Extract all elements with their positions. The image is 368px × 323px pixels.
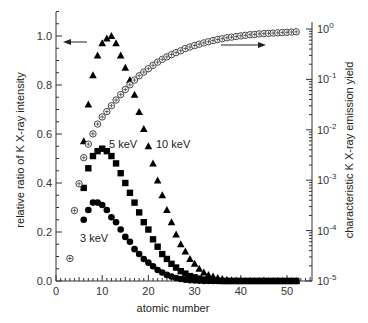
y-right-tick-label: 10-1	[317, 71, 337, 85]
annotation-3kev: 3 keV	[80, 232, 109, 244]
x-tick-label: 30	[188, 285, 200, 297]
y-tick-label: 0.0	[37, 275, 52, 287]
y-tick-label: 0.4	[37, 177, 52, 189]
y-tick-label: 1.0	[37, 30, 52, 42]
x-axis-label: atomic number	[137, 302, 210, 314]
y-right-tick-label: 10-3	[317, 172, 337, 186]
y-tick-label: 0.2	[37, 226, 52, 238]
y-tick-label: 0.6	[37, 128, 52, 140]
arrow-left-icon	[63, 39, 87, 45]
data-points	[67, 29, 300, 285]
y-right-tick-label: 10-4	[317, 223, 337, 237]
y-axis-label-right: characteristic K X-ray emission yield	[343, 62, 355, 239]
chart: 0.00.20.40.60.81.00102030405010-510-410-…	[0, 0, 368, 323]
series-3-kev	[80, 199, 299, 284]
y-axis-label-left: relative ratio of K X-ray intensity	[14, 72, 26, 228]
x-tick-label: 10	[96, 285, 108, 297]
y-right-tick-label: 100	[317, 21, 334, 35]
arrow-right-icon	[221, 42, 266, 48]
annotation-5kev: 5 keV	[109, 138, 138, 150]
annotation-10kev: 10 keV	[156, 138, 191, 150]
x-tick-label: 50	[281, 285, 293, 297]
y-right-tick-label: 10-2	[317, 122, 337, 136]
x-tick-label: 20	[142, 285, 154, 297]
y-right-tick-label: 10-5	[317, 273, 337, 287]
x-tick-label: 0	[53, 285, 59, 297]
y-tick-label: 0.8	[37, 79, 52, 91]
x-tick-label: 40	[235, 285, 247, 297]
